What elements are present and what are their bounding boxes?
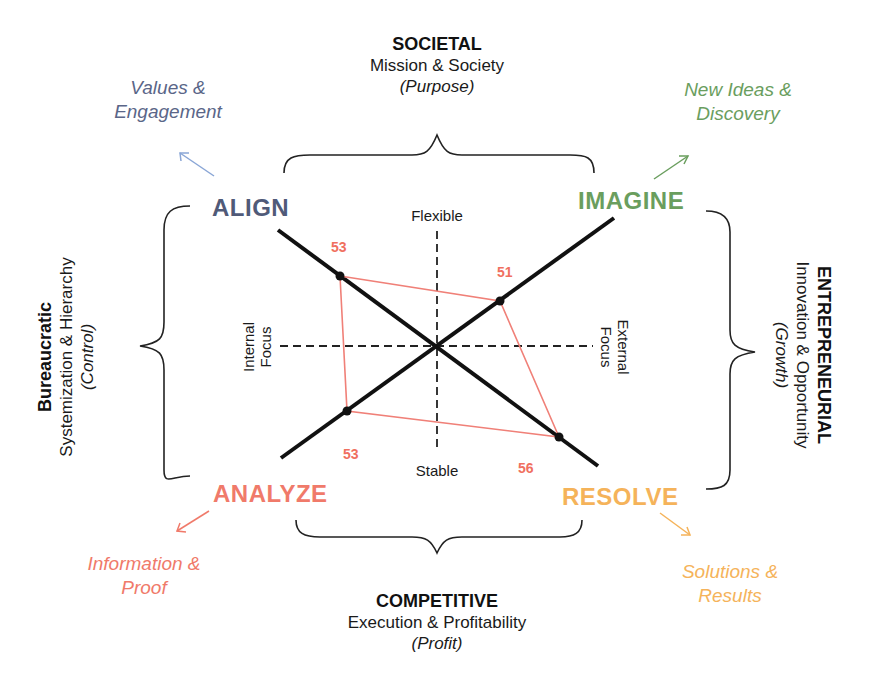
score-resolve: 56: [518, 460, 534, 476]
axis-label-internal-focus: Internal Focus: [240, 307, 276, 387]
profile-point-imagine: [496, 297, 505, 306]
outcome-align: Values & Engagement: [78, 76, 258, 124]
profile-point-align: [336, 272, 345, 281]
societal-title: SOCIETAL: [337, 34, 537, 55]
outcome-imagine-line2: Discovery: [648, 102, 828, 126]
entrepreneurial-block: ENTREPRENEURIAL Innovation & Opportunity…: [768, 220, 834, 490]
entrepreneurial-subtitle: Innovation & Opportunity: [792, 220, 813, 490]
bureaucratic-title: Bureaucratic: [35, 227, 56, 487]
quadrant-label-resolve: RESOLVE: [562, 483, 678, 511]
axis-label-external-focus: External Focus: [596, 307, 632, 387]
competitive-subtitle: Execution & Profitability: [307, 612, 567, 633]
axis-label-external-line1: External: [615, 307, 632, 387]
resolve-arrow: [660, 513, 690, 535]
outcome-imagine-line1: New Ideas &: [648, 78, 828, 102]
bureaucratic-focus: (Control): [77, 227, 98, 487]
score-align: 53: [331, 239, 347, 255]
entrepreneurial-title: ENTREPRENEURIAL: [813, 220, 834, 490]
competitive-block: COMPETITIVE Execution & Profitability (P…: [307, 591, 567, 654]
outcome-align-line2: Engagement: [78, 100, 258, 124]
outcome-resolve-line2: Results: [640, 584, 820, 608]
profile-point-analyze: [343, 407, 352, 416]
score-imagine: 51: [497, 264, 513, 280]
outcome-imagine: New Ideas & Discovery: [648, 78, 828, 126]
bureaucratic-subtitle: Systemization & Hierarchy: [56, 227, 77, 487]
quadrant-label-imagine: IMAGINE: [578, 187, 684, 215]
axis-label-stable: Stable: [387, 462, 487, 479]
axis-label-external-line2: Focus: [598, 307, 615, 387]
entrepreneurial-focus: (Growth): [771, 220, 792, 490]
top-brace: [284, 135, 594, 173]
competitive-title: COMPETITIVE: [307, 591, 567, 612]
analyze-arrow: [177, 511, 209, 532]
societal-block: SOCIETAL Mission & Society (Purpose): [337, 34, 537, 97]
bureaucratic-block: Bureaucratic Systemization & Hierarchy (…: [35, 227, 101, 487]
profile-point-resolve: [555, 433, 564, 442]
outcome-analyze: Information & Proof: [54, 552, 234, 600]
score-analyze: 53: [343, 446, 359, 462]
align-arrow: [180, 153, 214, 176]
outcome-resolve-line1: Solutions &: [640, 560, 820, 584]
outcome-analyze-line2: Proof: [54, 576, 234, 600]
axis-label-internal-line2: Focus: [257, 307, 274, 387]
outcome-analyze-line1: Information &: [54, 552, 234, 576]
societal-focus: (Purpose): [337, 76, 537, 97]
bottom-brace: [296, 520, 582, 553]
axis-label-internal-line1: Internal: [240, 307, 257, 387]
quadrant-label-align: ALIGN: [212, 194, 289, 222]
competitive-focus: (Profit): [307, 633, 567, 654]
left-brace: [140, 206, 190, 479]
quadrant-label-analyze: ANALYZE: [213, 480, 328, 508]
outcome-resolve: Solutions & Results: [640, 560, 820, 608]
outcome-align-line1: Values &: [78, 76, 258, 100]
imagine-arrow: [654, 156, 688, 179]
societal-subtitle: Mission & Society: [337, 55, 537, 76]
right-brace: [706, 211, 755, 489]
axis-label-flexible: Flexible: [387, 207, 487, 224]
